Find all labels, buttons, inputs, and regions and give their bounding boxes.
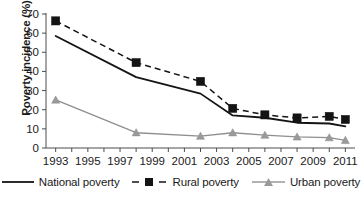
legend-label-rural-poverty: Rural poverty xyxy=(172,176,238,188)
y-tick-label: 10 xyxy=(26,123,39,135)
x-tick-label: 1993 xyxy=(43,155,69,167)
solid-line-swatch xyxy=(1,176,35,188)
gray-triangle-line-swatch xyxy=(252,176,286,188)
y-axis-ticks: 010203040506070 xyxy=(26,8,46,154)
legend-item-national-poverty[interactable]: National poverty xyxy=(1,176,120,188)
y-tick-label: 70 xyxy=(26,8,39,20)
legend-item-rural-poverty[interactable]: Rural poverty xyxy=(132,176,238,188)
dashed-square-swatch xyxy=(132,176,168,188)
y-tick-label: 50 xyxy=(26,46,39,58)
data-point-marker xyxy=(229,104,237,112)
y-tick-label: 40 xyxy=(26,65,39,77)
data-point-marker xyxy=(261,111,269,119)
x-axis-ticks: 1993199519971999200120032005200720092011 xyxy=(43,148,358,167)
poverty-incidence-line-chart: Poverty incidence (%) 010203040506070 19… xyxy=(0,0,361,200)
data-point-marker xyxy=(196,77,204,85)
legend-label-national-poverty: National poverty xyxy=(39,176,120,188)
x-tick-label: 2001 xyxy=(172,155,198,167)
plot-area: 010203040506070 199319951997199920012003… xyxy=(0,0,361,175)
x-tick-label: 2007 xyxy=(268,155,294,167)
chart-legend: National poverty Rural poverty Urban pov… xyxy=(0,176,361,188)
data-point-marker xyxy=(293,114,301,122)
series-line-rural-poverty xyxy=(56,21,346,120)
data-point-marker xyxy=(52,17,60,25)
data-point-marker xyxy=(341,115,349,123)
data-point-marker xyxy=(52,96,60,103)
x-tick-label: 2011 xyxy=(333,155,358,167)
y-tick-label: 20 xyxy=(26,104,39,116)
data-point-marker xyxy=(325,112,333,120)
data-point-marker xyxy=(132,59,140,67)
x-tick-label: 2005 xyxy=(236,155,262,167)
x-tick-label: 1999 xyxy=(139,155,165,167)
data-markers-layer xyxy=(52,17,350,144)
y-tick-label: 60 xyxy=(26,27,39,39)
x-tick-label: 2009 xyxy=(300,155,326,167)
x-tick-label: 2003 xyxy=(204,155,230,167)
x-tick-label: 1995 xyxy=(75,155,101,167)
x-tick-label: 1997 xyxy=(107,155,133,167)
y-tick-label: 0 xyxy=(33,142,39,154)
legend-item-urban-poverty[interactable]: Urban poverty xyxy=(252,176,360,188)
legend-label-urban-poverty: Urban poverty xyxy=(290,176,360,188)
y-tick-label: 30 xyxy=(26,85,39,97)
